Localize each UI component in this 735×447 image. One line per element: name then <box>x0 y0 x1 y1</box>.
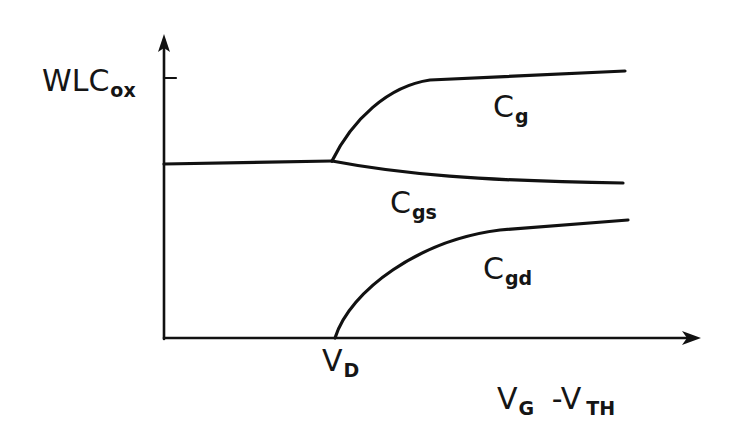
y-tick-sub: ox <box>110 79 135 101</box>
xlabel-vg-sub: G <box>519 397 535 419</box>
cgs-sub: gs <box>412 201 437 223</box>
vd-sub: D <box>344 359 360 381</box>
curve-cgs <box>332 161 623 183</box>
curve-cg-cgs-shared <box>164 161 332 164</box>
cg-sub: g <box>515 105 529 127</box>
xlabel-vg-main: V <box>497 381 518 416</box>
cgd-sub: gd <box>505 267 532 289</box>
y-tick-label-wlcox: WLCox <box>42 66 136 96</box>
cg-main: C <box>493 89 514 124</box>
x-axis-label: VG -VTH <box>497 384 615 414</box>
cgs-main: C <box>390 185 411 220</box>
xlabel-vth-main: -V <box>542 381 581 416</box>
x-tick-label-vd: VD <box>322 346 359 376</box>
y-tick-main: WLC <box>42 63 109 98</box>
curve-cgd <box>335 220 628 338</box>
curve-cg <box>332 71 625 161</box>
xlabel-vth-sub: TH <box>586 397 615 419</box>
curve-label-cg: Cg <box>493 92 529 122</box>
curve-label-cgd: Cgd <box>483 254 532 284</box>
cgd-main: C <box>483 251 504 286</box>
vd-main: V <box>322 343 343 378</box>
curve-label-cgs: Cgs <box>390 188 437 218</box>
